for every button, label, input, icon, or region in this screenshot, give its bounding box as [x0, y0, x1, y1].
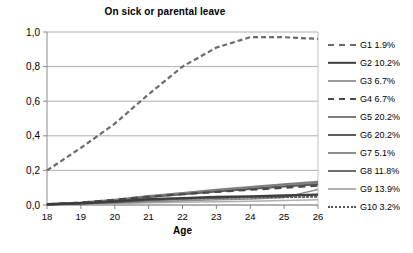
legend-label-G8: G8 11.8% [360, 166, 399, 176]
x-axis-tick-label: 19 [76, 211, 87, 222]
legend-item-G9[interactable]: G9 13.9% [328, 180, 413, 198]
chart-container: On sick or parental leave 0,00,20,40,60,… [0, 0, 413, 253]
legend-item-G5[interactable]: G5 20.2% [328, 108, 413, 126]
legend-label-G9: G9 13.9% [360, 184, 400, 194]
legend-item-G3[interactable]: G3 6.7% [328, 72, 413, 90]
legend-label-G4: G4 6.7% [360, 94, 395, 104]
legend-label-G3: G3 6.7% [360, 76, 395, 86]
legend-swatch-G9-icon [328, 184, 356, 194]
x-axis-tick-label: 25 [279, 211, 290, 222]
legend-swatch-G4-icon [328, 94, 356, 104]
y-axis-tick-label: 0,4 [26, 130, 40, 141]
legend-label-G6: G6 20.2% [360, 130, 400, 140]
y-axis-tick-label: 0,8 [26, 61, 40, 72]
y-axis-tick-label: 0,6 [26, 96, 40, 107]
x-axis-title: Age [173, 225, 192, 236]
legend-label-G2: G2 10.2% [360, 58, 400, 68]
y-axis-tick-label: 0,0 [26, 200, 40, 211]
legend-swatch-G5-icon [328, 112, 356, 122]
legend-item-G7[interactable]: G7 5.1% [328, 144, 413, 162]
x-axis-tick-label: 18 [42, 211, 53, 222]
legend-item-G2[interactable]: G2 10.2% [328, 54, 413, 72]
legend-swatch-G2-icon [328, 58, 356, 68]
legend-label-G1: G1 1.9% [360, 40, 395, 50]
legend-swatch-G8-icon [328, 166, 356, 176]
chart-legend: G1 1.9%G2 10.2%G3 6.7%G4 6.7%G5 20.2%G6 … [328, 36, 413, 216]
x-axis-tick-label: 23 [211, 211, 222, 222]
legend-label-G10: G10 3.2% [360, 202, 400, 212]
legend-item-G4[interactable]: G4 6.7% [328, 90, 413, 108]
legend-swatch-G3-icon [328, 76, 356, 86]
legend-label-G7: G7 5.1% [360, 148, 395, 158]
legend-swatch-G6-icon [328, 130, 356, 140]
legend-item-G8[interactable]: G8 11.8% [328, 162, 413, 180]
plot-background [47, 32, 318, 205]
y-axis-tick-label: 0,2 [26, 165, 40, 176]
legend-swatch-G7-icon [328, 148, 356, 158]
x-axis-tick-label: 21 [143, 211, 154, 222]
y-axis-tick-label: 1,0 [26, 27, 40, 38]
legend-item-G10[interactable]: G10 3.2% [328, 198, 413, 216]
x-axis-tick-label: 20 [109, 211, 120, 222]
legend-label-G5: G5 20.2% [360, 112, 400, 122]
legend-item-G1[interactable]: G1 1.9% [328, 36, 413, 54]
legend-item-G6[interactable]: G6 20.2% [328, 126, 413, 144]
x-axis-tick-label: 24 [245, 211, 256, 222]
legend-swatch-G10-icon [328, 202, 356, 212]
legend-swatch-G1-icon [328, 40, 356, 50]
x-axis-tick-label: 26 [313, 211, 324, 222]
x-axis-tick-label: 22 [177, 211, 188, 222]
